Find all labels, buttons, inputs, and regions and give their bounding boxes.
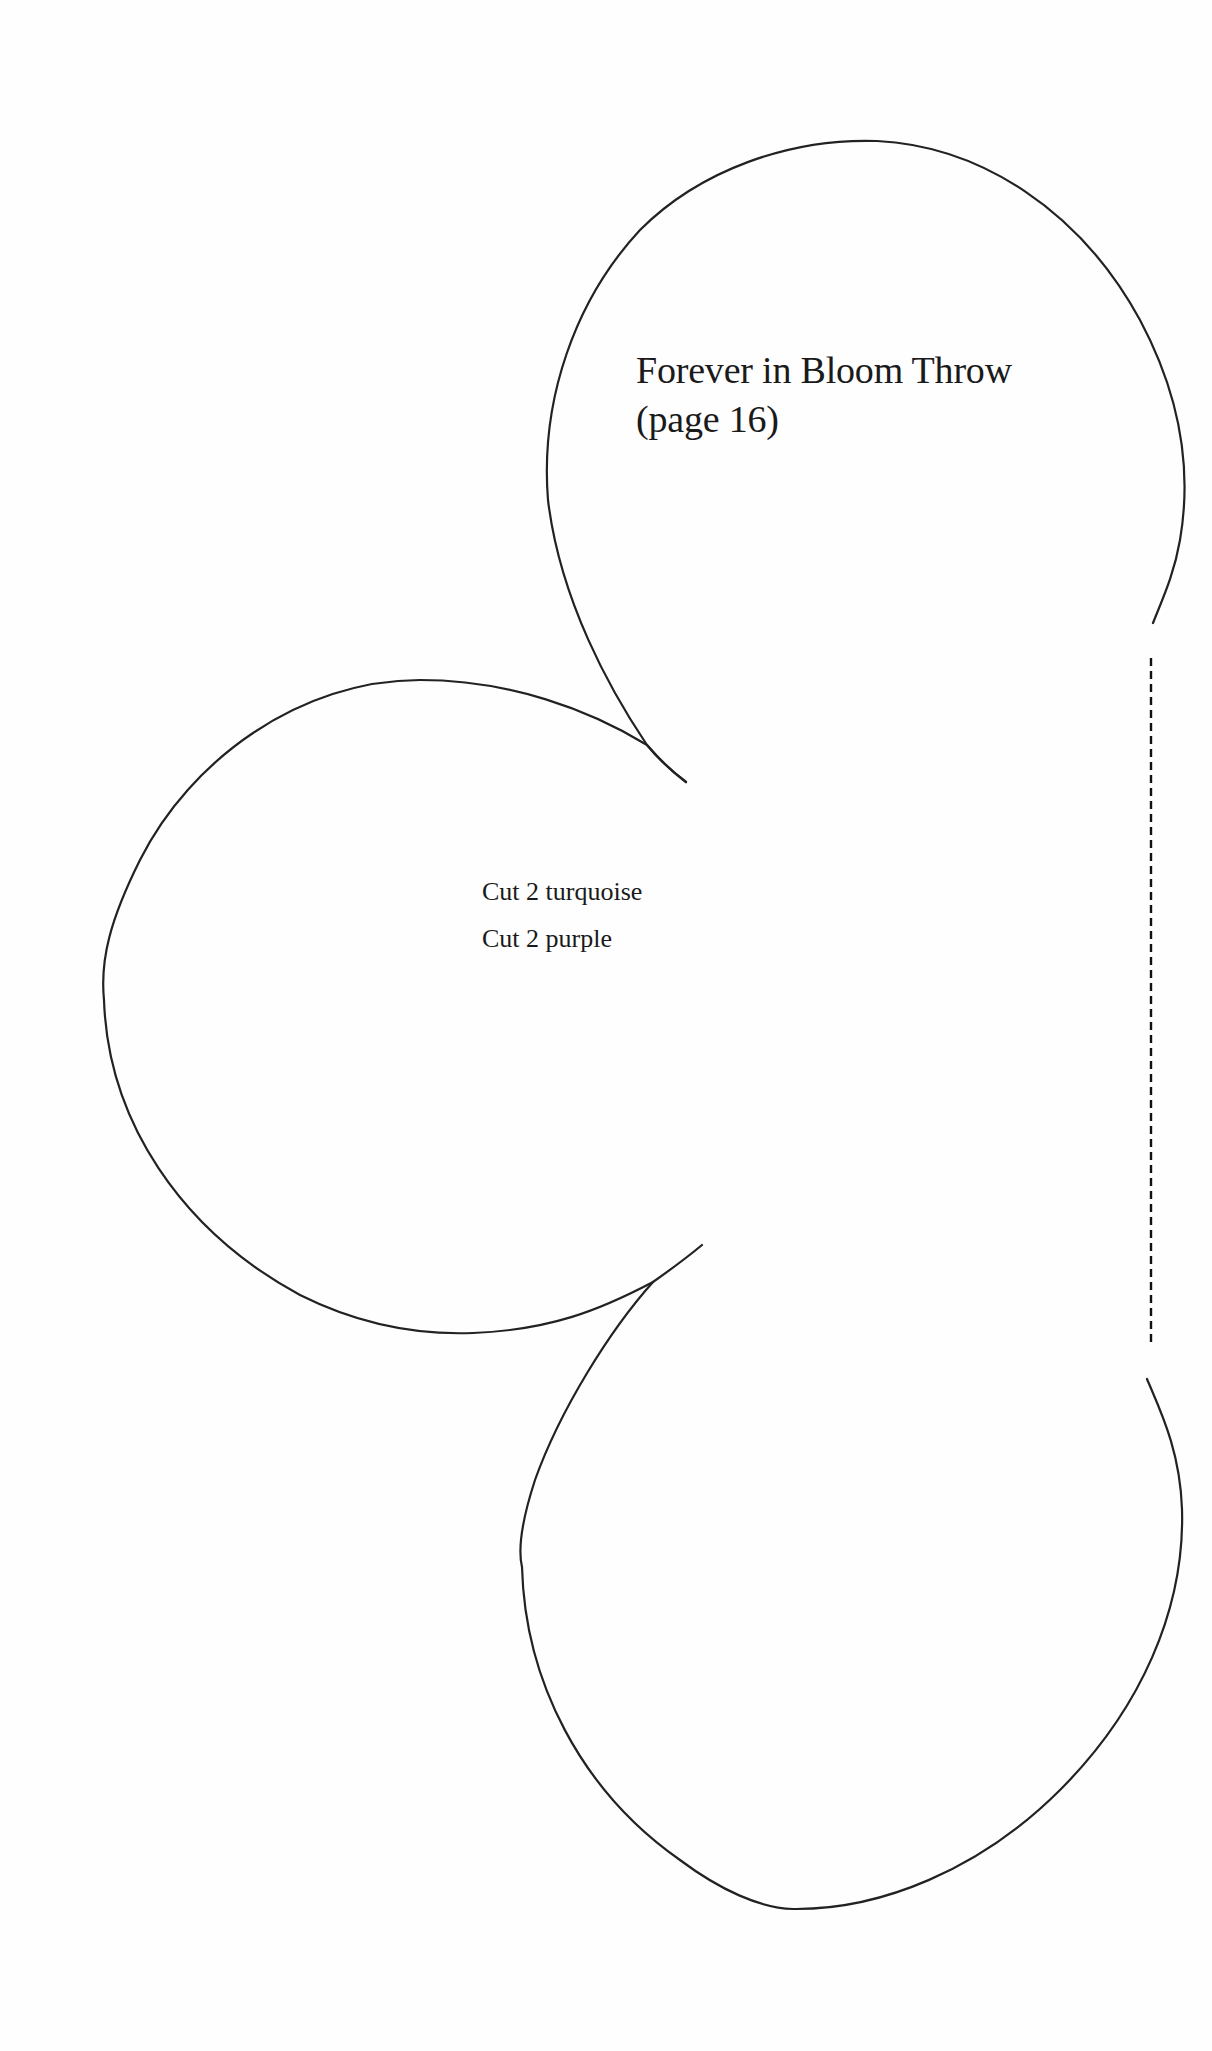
- pattern-page-reference: (page 16): [636, 395, 1012, 444]
- petal-template-outline: [0, 0, 1212, 2051]
- pattern-title: Forever in Bloom Throw (page 16): [636, 346, 1012, 444]
- cut-instruction-purple: Cut 2 purple: [482, 915, 642, 962]
- pattern-page: Forever in Bloom Throw (page 16) Cut 2 t…: [0, 0, 1212, 2051]
- cutting-instructions: Cut 2 turquoise Cut 2 purple: [482, 868, 642, 962]
- lower-petal-outline: [521, 1282, 1183, 1909]
- upper-petal-outline: [547, 141, 1185, 782]
- cut-instruction-turquoise: Cut 2 turquoise: [482, 868, 642, 915]
- left-petal-outline: [103, 680, 702, 1333]
- pattern-title-name: Forever in Bloom Throw: [636, 346, 1012, 395]
